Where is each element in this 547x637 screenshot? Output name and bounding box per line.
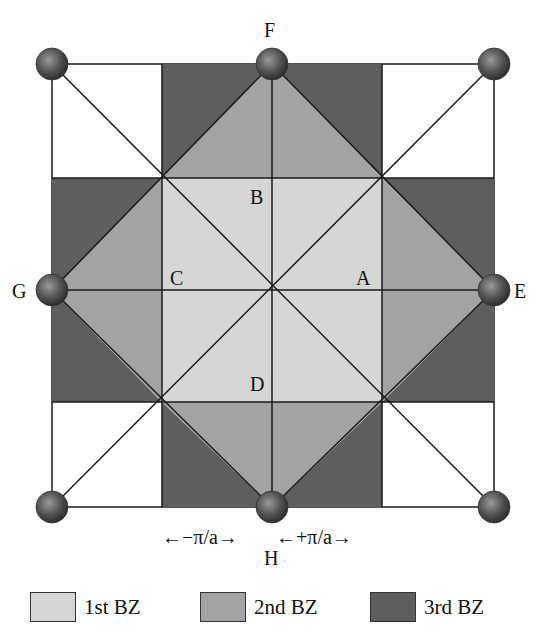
atom-G [36,274,68,306]
label-H: H [264,548,278,568]
legend-label-3rd-bz: 3rd BZ [424,595,484,620]
label-F: F [264,20,275,40]
legend-item-1st-bz: 1st BZ [30,592,141,622]
legend: 1st BZ 2nd BZ 3rd BZ [0,592,547,632]
label-C: C [170,268,183,288]
label-B: B [250,187,263,207]
label-G: G [12,281,26,301]
legend-label-1st-bz: 1st BZ [84,595,141,620]
legend-swatch-3rd-bz [370,592,416,622]
atom-top-right [478,48,510,80]
legend-swatch-1st-bz [30,592,76,622]
legend-item-3rd-bz: 3rd BZ [370,592,484,622]
atom-F [256,48,288,80]
axis-plus-pi-over-a: ←+π/a→ [276,527,352,547]
legend-swatch-2nd-bz [200,592,246,622]
label-A: A [356,268,370,288]
atom-bottom-left [36,491,68,523]
atom-bottom-right [478,491,510,523]
legend-label-2nd-bz: 2nd BZ [254,595,318,620]
atom-H [256,491,288,523]
axis-minus-pi-over-a: ←−π/a→ [162,527,238,547]
atom-top-left [36,48,68,80]
brillouin-zone-diagram [0,0,547,637]
label-E: E [514,281,526,301]
label-D: D [250,374,264,394]
atom-E [478,274,510,306]
legend-item-2nd-bz: 2nd BZ [200,592,318,622]
